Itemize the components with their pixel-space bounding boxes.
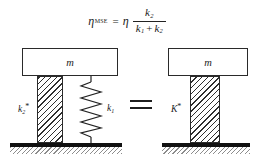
equation-block: ηMSE = η k2 k1+k2 [0,3,254,39]
K-superscript-star: * [177,102,181,111]
mechanical-model-diagram: m k2* k1 m [0,40,254,167]
right-mass-block: m [168,48,248,76]
left-ground-hatching [10,147,122,154]
denominator-k2-symbol: k [154,22,159,34]
figure-root: ηMSE = η k2 k1+k2 m [0,0,254,167]
right-system: m K* [160,40,252,167]
eta-mse-subscript: MSE [95,18,108,24]
label-k2-star: k2* [18,102,29,115]
numerator-k-subscript: 2 [150,12,153,19]
denominator-k1-symbol: k [136,22,141,34]
eta-symbol: η [123,15,129,27]
equals-sign: = [113,16,119,27]
left-mass-label: m [66,57,74,68]
denominator-k1-subscript: 1 [141,27,144,34]
equivalence-equals-icon [130,98,154,112]
left-system: m k2* k1 [4,40,126,167]
equivalence-bar-bottom [130,107,152,109]
k1-subscript: 1 [111,108,114,114]
right-ground-hatching [162,147,250,154]
label-K-star: K* [171,102,181,114]
equivalence-bar-top [130,100,152,102]
equation-expression: ηMSE = η k2 k1+k2 [88,7,166,34]
left-mass-block: m [22,48,118,76]
fraction-numerator: k2 [141,7,157,20]
stiffness-ratio-fraction: k2 k1+k2 [133,7,166,34]
k2-superscript-star: * [25,102,29,111]
fraction-denominator: k1+k2 [133,22,166,35]
denominator-k2-subscript: 2 [160,27,163,34]
eta-mse-symbol: η [88,15,94,27]
right-viscoelastic-column-icon [190,76,220,143]
label-k1: k1 [107,103,114,114]
coil-spring-icon [78,76,104,143]
left-viscoelastic-column-icon [37,76,63,143]
right-mass-label: m [204,57,212,68]
denominator-plus-operator: + [146,22,152,34]
